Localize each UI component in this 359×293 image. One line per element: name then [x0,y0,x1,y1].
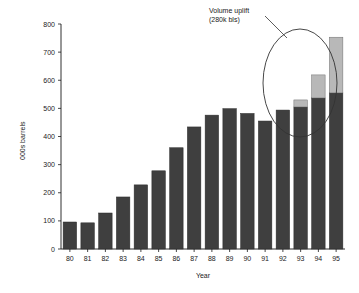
x-tick-label: 90 [243,255,251,262]
bar-segment-base [81,223,94,249]
x-tick-label: 81 [84,255,92,262]
x-tick-label: 93 [297,255,305,262]
bar-segment-base [241,113,254,249]
y-tick-label: 100 [43,217,55,224]
bar-segment-base [258,121,271,249]
x-axis-title: Year [196,272,211,279]
x-tick-label: 91 [261,255,269,262]
bar-segment-base [312,98,325,249]
bar-chart-figure: 0100200300400500600700800 80818283848586… [0,0,359,293]
bar-segment-base [152,171,165,249]
bar-segment-base [134,185,147,249]
bar-segment-uplift [312,75,325,98]
bar-segment-base [294,107,307,249]
bar-segment-base [187,127,200,249]
bar-segment-base [205,115,218,249]
y-tick-label: 600 [43,77,55,84]
y-tick-label: 300 [43,161,55,168]
annotation-line-1: Volume uplift [209,7,249,15]
x-tick-label: 82 [101,255,109,262]
bar-segment-base [99,213,112,249]
y-tick-label: 400 [43,133,55,140]
y-tick-label: 800 [43,21,55,28]
chart-canvas: 0100200300400500600700800 80818283848586… [0,0,359,293]
x-tick-label: 92 [279,255,287,262]
x-tick-label: 94 [314,255,322,262]
y-tick-label: 700 [43,49,55,56]
bar-segment-base [116,197,129,249]
x-tick-label: 85 [155,255,163,262]
x-tick-label: 86 [172,255,180,262]
x-tick-label: 87 [190,255,198,262]
bar-segment-uplift [294,100,307,107]
bar-segment-base [223,109,236,249]
y-tick-label: 200 [43,189,55,196]
x-tick-label: 88 [208,255,216,262]
x-tick-label: 80 [66,255,74,262]
annotation-line-2: (280k bls) [209,16,240,24]
x-tick-label: 95 [332,255,340,262]
x-tick-label: 89 [226,255,234,262]
bar-segment-base [63,222,76,249]
bar-segment-base [170,148,183,249]
x-tick-label: 84 [137,255,145,262]
x-tick-label: 83 [119,255,127,262]
y-tick-label: 0 [51,246,55,253]
bar-segment-uplift [329,37,342,93]
bar-segment-base [329,93,342,249]
y-axis-title: 000s barrels [19,121,26,160]
y-tick-label: 500 [43,105,55,112]
